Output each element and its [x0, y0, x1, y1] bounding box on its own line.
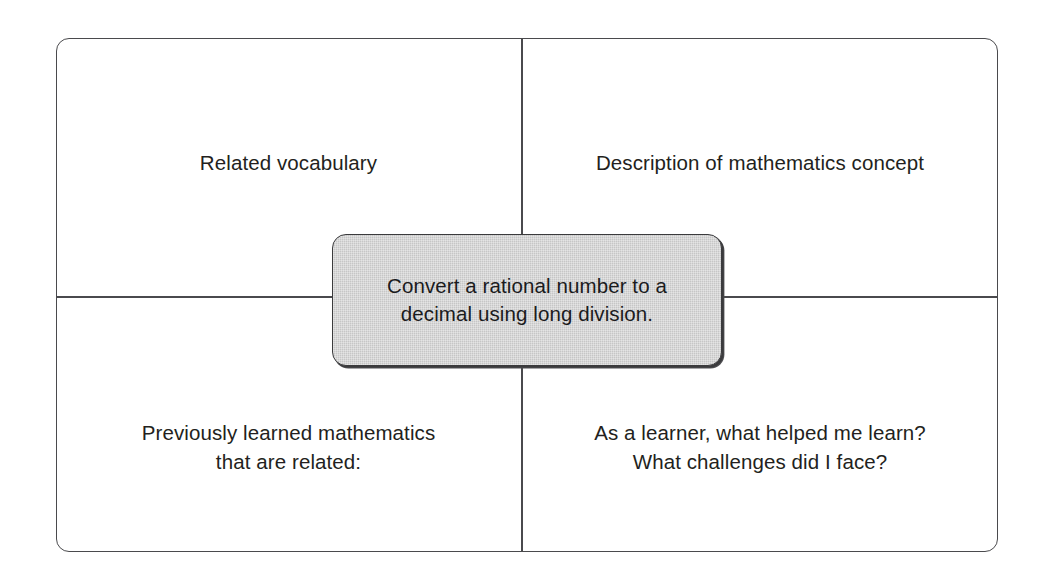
quadrant-top-left: Related vocabulary [57, 148, 520, 177]
quadrant-bottom-right: As a learner, what helped me learn? What… [523, 418, 997, 476]
horizontal-divider-left [56, 296, 333, 298]
quadrant-bottom-right-label: As a learner, what helped me learn? What… [594, 418, 926, 476]
quadrant-top-right: Description of mathematics concept [523, 148, 997, 177]
quadrant-bottom-left-label: Previously learned mathematics that are … [142, 418, 436, 476]
quadrant-top-left-label: Related vocabulary [200, 148, 377, 177]
quadrant-top-right-label: Description of mathematics concept [596, 148, 924, 177]
center-concept-text: Convert a rational number to a decimal u… [369, 272, 685, 328]
quadrant-bottom-left: Previously learned mathematics that are … [57, 418, 520, 476]
diagram-canvas: Related vocabulary Description of mathem… [0, 0, 1044, 580]
horizontal-divider-right [721, 296, 998, 298]
center-concept-box: Convert a rational number to a decimal u… [332, 234, 722, 366]
